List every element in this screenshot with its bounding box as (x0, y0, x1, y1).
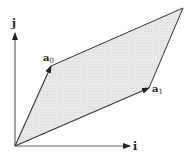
i-axis-label: i (133, 140, 137, 153)
vector-parallelogram-diagram: i j a0 a1 (0, 0, 187, 155)
j-axis-label: j (11, 17, 16, 30)
vector-a1-label: a1 (152, 83, 163, 96)
vector-a0-label: a0 (43, 52, 54, 65)
parallelogram-area (15, 8, 183, 146)
